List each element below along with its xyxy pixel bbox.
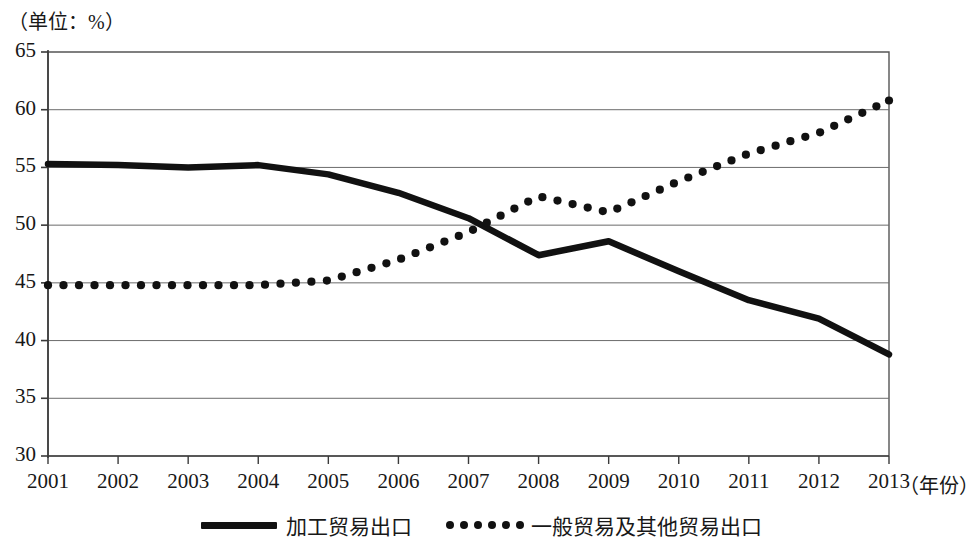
series-dot: [121, 281, 129, 289]
series-dot: [538, 193, 546, 201]
y-axis-tick-label: 60: [0, 96, 36, 121]
y-axis-tick-label: 50: [0, 211, 36, 236]
series-dot: [699, 168, 707, 176]
x-axis-tick-label: 2009: [574, 469, 644, 494]
series-dot: [199, 281, 207, 289]
x-axis-tick-label: 2006: [363, 469, 433, 494]
series-dot: [524, 198, 532, 206]
series-dot: [844, 115, 852, 123]
series-dot: [106, 281, 114, 289]
series-dot: [323, 277, 331, 285]
series-dot: [137, 281, 145, 289]
legend-dot-icon: [516, 521, 524, 529]
series-dot: [872, 102, 880, 110]
x-axis-tick-label: 2002: [83, 469, 153, 494]
series-dot: [727, 156, 735, 164]
series-dot: [786, 137, 794, 145]
series-dot: [426, 243, 434, 251]
x-axis-tick-label: 2004: [223, 469, 293, 494]
y-axis-tick-label: 30: [0, 442, 36, 467]
series-dot: [411, 249, 419, 257]
series-dot: [684, 173, 692, 181]
series-dot: [627, 198, 635, 206]
legend-dot-icon: [488, 521, 496, 529]
series-dot: [245, 281, 253, 289]
series-dot: [497, 212, 505, 220]
series-dot: [338, 273, 346, 281]
series-dot: [670, 179, 678, 187]
series-dot: [90, 281, 98, 289]
series-dot: [382, 259, 390, 267]
plot-frame: [48, 52, 889, 456]
legend-dot-icon: [446, 521, 454, 529]
series-dot: [642, 192, 650, 200]
x-axis-tick-label: 2005: [293, 469, 363, 494]
legend-item-processing-trade: 加工贸易出口: [201, 510, 412, 540]
x-axis-tick-label: 2011: [714, 469, 784, 494]
series-dot: [483, 219, 491, 227]
series-line-dotted: [44, 96, 893, 289]
series-dot: [44, 281, 52, 289]
series-dot: [801, 133, 809, 141]
x-axis-tick-label: 2007: [434, 469, 504, 494]
series-dot: [742, 151, 750, 159]
series-dot: [214, 281, 222, 289]
series-dot: [656, 186, 664, 194]
x-axis-tick-label: 2012: [784, 469, 854, 494]
series-dot: [292, 279, 300, 287]
legend-dot-icon: [460, 521, 468, 529]
series-dot: [152, 281, 160, 289]
series-dot: [510, 205, 518, 213]
series-dot: [772, 142, 780, 150]
series-dot: [885, 96, 893, 104]
series-dot: [584, 204, 592, 212]
series-dot: [230, 281, 238, 289]
x-axis-tick-label: 2010: [644, 469, 714, 494]
y-axis-tick-label: 55: [0, 153, 36, 178]
x-axis-tick-label: 2001: [13, 469, 83, 494]
series-dot: [440, 238, 448, 246]
series-dot: [455, 232, 463, 240]
series-dot: [816, 128, 824, 136]
legend-label-general-trade: 一般贸易及其他贸易出口: [531, 510, 762, 540]
series-dot: [367, 264, 375, 272]
y-axis-tick-label: 45: [0, 269, 36, 294]
x-axis-tick-label: 2008: [504, 469, 574, 494]
x-axis-title: （年份）: [899, 470, 970, 499]
series-dot: [858, 109, 866, 117]
series-dot: [757, 146, 765, 154]
y-axis-tick-label: 35: [0, 384, 36, 409]
series-dot: [397, 255, 405, 263]
x-axis-tick-label: 2003: [153, 469, 223, 494]
series-dot: [168, 281, 176, 289]
series-dot: [613, 205, 621, 213]
series-dot: [307, 278, 315, 286]
legend-label-processing-trade: 加工贸易出口: [286, 510, 412, 540]
series-dot: [569, 200, 577, 208]
series-dot: [261, 281, 269, 289]
series-dot: [353, 268, 361, 276]
series-dot: [713, 162, 721, 170]
series-dot: [276, 280, 284, 288]
series-dot: [75, 281, 83, 289]
series-dot: [183, 281, 191, 289]
y-axis-tick-label: 65: [0, 38, 36, 63]
legend-dot-icon: [502, 521, 510, 529]
series-dot: [830, 122, 838, 130]
series-dot: [553, 197, 561, 205]
series-dot: [599, 207, 607, 215]
chart-legend: 加工贸易出口 一般贸易及其他贸易出口: [0, 508, 963, 542]
legend-dot-icon: [474, 521, 482, 529]
series-dot: [469, 226, 477, 234]
legend-item-general-trade: 一般贸易及其他贸易出口: [446, 510, 762, 540]
solid-line-swatch-icon: [201, 522, 277, 529]
y-axis-tick-label: 40: [0, 327, 36, 352]
series-line-solid: [48, 164, 889, 354]
dotted-line-swatch-icon: [446, 521, 522, 530]
series-dot: [59, 281, 67, 289]
